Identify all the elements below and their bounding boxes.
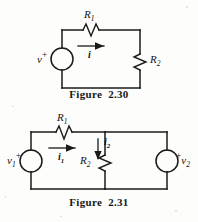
resistor-r2-label-231: R2 xyxy=(80,155,90,169)
voltage-source-v2-label-231: +v2 xyxy=(176,152,190,168)
current-i1-arrow-head-231 xyxy=(66,144,75,151)
voltage-source-v2-circle-231 xyxy=(156,150,178,172)
scan-speck xyxy=(175,210,177,212)
scan-speck xyxy=(186,6,188,8)
scan-speck xyxy=(5,196,6,198)
voltage-source-v1-label-231: v1+ xyxy=(7,152,21,168)
current-i2-label-231: i2 xyxy=(104,137,110,150)
resistor-r2-zigzag-231 xyxy=(99,155,111,171)
resistor-r1-zigzag-231 xyxy=(56,126,72,139)
scan-speck xyxy=(60,216,62,217)
figure-2-31-caption: Figure 2.31 xyxy=(0,196,198,208)
resistor-r1-label-231: R1 xyxy=(57,112,67,126)
current-i1-label-231: i1 xyxy=(58,152,64,165)
scan-speck xyxy=(12,106,14,107)
figure-page: R1 R2 v+ i Figure 2.30 xyxy=(0,0,198,222)
figure-2-31-drawing xyxy=(0,0,198,222)
voltage-source-v1-circle-231 xyxy=(20,150,42,172)
